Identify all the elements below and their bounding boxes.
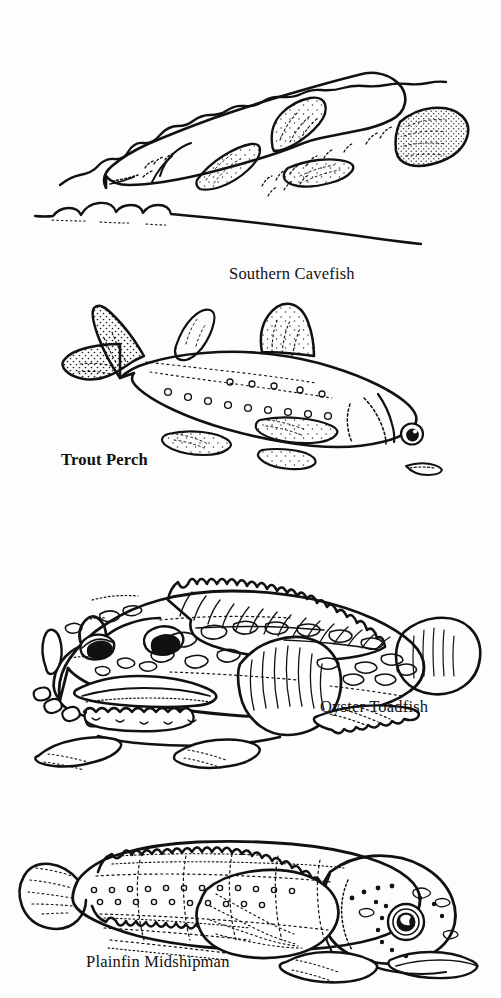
- cavefish-body: [104, 73, 405, 188]
- caption-oyster-toadfish: Oyster Toadfish: [320, 699, 428, 716]
- troutperch-anal-fin: [258, 449, 316, 469]
- midshipman-cheek-line: [342, 880, 352, 950]
- midshipman-caudal-rays: [28, 868, 72, 914]
- troutperch-lateral-spots: [165, 389, 332, 420]
- floor-pebble-dots: [52, 220, 168, 225]
- cavefish-caudal-fin: [396, 108, 469, 166]
- illustration-plate: Southern Cavefish Trout Perch Oyster Toa…: [0, 0, 501, 998]
- caption-trout-perch: Trout Perch: [61, 452, 148, 469]
- midshipman-dorsal-stipple: [112, 854, 344, 868]
- troutperch-mouth: [406, 463, 442, 475]
- troutperch-dorsal-fin: [261, 304, 314, 356]
- troutperch-cheek-line: [347, 404, 352, 442]
- troutperch-pupil: [406, 429, 419, 442]
- troutperch-operculum: [364, 398, 386, 444]
- cavefish-dorsal-fin: [272, 98, 326, 151]
- toadfish-teeth: [84, 708, 194, 731]
- figure-southern-cavefish: [35, 73, 468, 244]
- caption-plainfin-midshipman: Plainfin Midshipman: [86, 954, 230, 971]
- troutperch-eye-highlight: [413, 429, 417, 433]
- toadfish-pelvic-fin-right: [174, 740, 260, 769]
- troutperch-pelvic-fin: [162, 431, 231, 455]
- caption-southern-cavefish: Southern Cavefish: [229, 266, 355, 283]
- cavefish-pectoral-fin: [196, 144, 260, 190]
- toadfish-body-fold-1: [196, 626, 324, 630]
- troutperch-lateral-line: [150, 372, 332, 398]
- troutperch-dorsal-spots: [227, 379, 325, 397]
- midshipman-pelvic-fin: [280, 952, 377, 982]
- figure-oyster-toadfish: [34, 579, 481, 770]
- fish-plate-drawing: [0, 0, 501, 998]
- troutperch-head-line: [378, 394, 394, 442]
- midshipman-head: [320, 856, 456, 964]
- toadfish-upper-jaw: [74, 676, 216, 707]
- toadfish-caudal-fin: [396, 618, 480, 695]
- cavefish-anal-fin: [284, 159, 354, 186]
- cave-floor-line: [35, 203, 421, 244]
- midshipman-caudal-fin: [19, 864, 86, 929]
- toadfish-barbel: [42, 630, 61, 674]
- cave-ceiling-line: [60, 82, 446, 185]
